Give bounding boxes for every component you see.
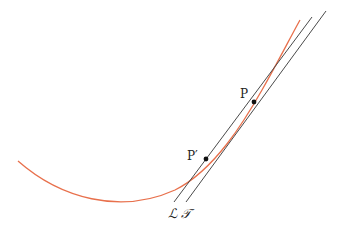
point-P-label: P (240, 87, 248, 101)
point-P (252, 100, 257, 105)
line-T-label: 𝒯 (181, 206, 195, 221)
diagram-canvas: P P′ ℒ 𝒯 (0, 0, 338, 231)
curve (18, 20, 300, 202)
secant-line-L (174, 17, 312, 202)
tangent-line-T (186, 11, 326, 202)
line-L-label: ℒ (168, 206, 178, 221)
point-P-prime (204, 157, 209, 162)
point-P-prime-label: P′ (187, 149, 198, 163)
